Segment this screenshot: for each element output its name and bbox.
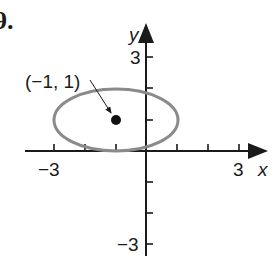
ellipse-graph: (−1, 1) −3 3 x y 3 −3	[0, 0, 274, 266]
x-tick-label-neg3: −3	[38, 159, 60, 180]
x-axis-label: x	[257, 159, 269, 180]
y-tick-label-neg3: −3	[117, 234, 139, 255]
y-axis-label: y	[127, 24, 140, 45]
x-tick-label-3: 3	[233, 159, 244, 180]
center-point	[111, 115, 121, 125]
y-tick-label-3: 3	[130, 47, 141, 68]
annotation-arrow	[90, 80, 111, 113]
center-point-label: (−1, 1)	[25, 71, 80, 92]
